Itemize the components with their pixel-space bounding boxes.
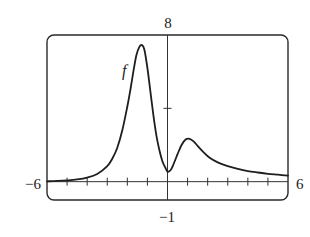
y-max-label: 8 <box>164 15 172 31</box>
curve-label-f: f <box>122 62 129 80</box>
chart-canvas: 8 −1 −6 6 f <box>0 0 310 237</box>
axes <box>47 35 288 200</box>
x-min-label: −6 <box>25 176 41 192</box>
y-min-label: −1 <box>159 209 175 225</box>
x-max-label: 6 <box>296 176 304 192</box>
